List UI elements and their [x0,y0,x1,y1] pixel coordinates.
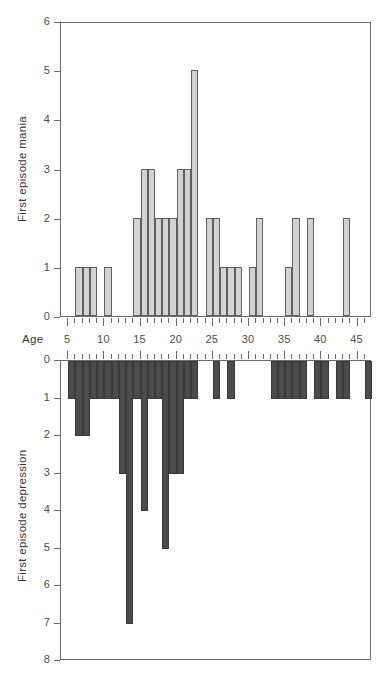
mania-plot-area [60,22,371,317]
mania-bar [292,218,299,316]
x-tick-mark [234,318,235,323]
x-tick-mark [140,318,141,326]
x-tick-mark [277,318,278,323]
y-tick-label: 1 [36,391,50,403]
x-tick-mark [147,354,148,359]
mania-bar [162,218,169,316]
x-tick-mark [212,351,213,359]
x-tick-mark [349,318,350,323]
mania-bar [75,267,82,316]
mania-bar [155,218,162,316]
mania-bar [213,218,220,316]
depression-bars-layer [61,361,370,659]
depression-plot-area [60,360,371,660]
x-tick-mark [140,351,141,359]
x-tick-mark [320,351,321,359]
x-tick-mark [306,354,307,359]
x-tick-mark [291,318,292,323]
y-tick-mark [54,435,60,436]
x-tick-mark [154,318,155,323]
figure-root: First episode mania 0123456 Age 51015202… [0,0,379,687]
mania-bar [256,218,263,316]
y-tick-mark [54,660,60,661]
x-tick-mark [299,354,300,359]
depression-bar [321,361,328,399]
x-tick-mark [205,318,206,323]
mania-bar [307,218,314,316]
x-tick-mark [248,318,249,326]
depression-bar [90,361,97,399]
mania-bar [235,267,242,316]
depression-bar [155,361,162,399]
x-tick-mark [284,351,285,359]
depression-bar [68,361,75,399]
depression-bar [278,361,285,399]
mania-bar [177,169,184,317]
y-tick-label: 1 [36,261,50,273]
x-tick-mark [67,318,68,326]
x-tick-label: 45 [345,333,369,345]
x-tick-mark [161,354,162,359]
depression-y-axis-title: First episode depression [16,450,28,583]
mania-bar [184,169,191,317]
depression-bar [104,361,111,399]
x-tick-label: 40 [308,333,332,345]
depression-bar [83,361,90,436]
x-tick-mark [103,351,104,359]
mania-bar [249,267,256,316]
x-tick-mark [226,354,227,359]
y-tick-label: 4 [36,503,50,515]
depression-bar [112,361,119,399]
x-tick-mark [335,354,336,359]
x-tick-mark [277,354,278,359]
depression-bar [126,361,133,624]
x-tick-mark [82,354,83,359]
x-tick-mark [67,351,68,359]
x-tick-label: 15 [128,333,152,345]
depression-bar [169,361,176,474]
x-axis-title: Age [22,333,43,345]
x-tick-mark [176,318,177,326]
x-tick-mark [147,318,148,323]
depression-bar [336,361,343,399]
x-tick-mark [197,318,198,323]
mania-bar [285,267,292,316]
x-tick-mark [328,354,329,359]
depression-bar [343,361,350,399]
y-tick-mark [54,22,60,23]
x-tick-mark [197,354,198,359]
mania-bar [220,267,227,316]
x-tick-mark [103,318,104,326]
y-tick-mark [54,219,60,220]
depression-bar [285,361,292,399]
y-tick-label: 2 [36,428,50,440]
x-tick-mark [190,354,191,359]
y-tick-label: 2 [36,212,50,224]
x-tick-mark [168,354,169,359]
x-tick-mark [190,318,191,323]
x-tick-mark [219,318,220,323]
x-tick-label: 5 [55,333,79,345]
x-tick-label: 10 [91,333,115,345]
depression-bar [177,361,184,474]
y-tick-label: 8 [36,653,50,665]
x-tick-label: 35 [272,333,296,345]
y-tick-label: 0 [36,353,50,365]
x-tick-mark [241,318,242,323]
y-tick-mark [54,317,60,318]
mania-bar [104,267,111,316]
mania-bars-layer [61,23,370,316]
x-tick-mark [96,354,97,359]
y-tick-mark [54,170,60,171]
x-tick-mark [89,318,90,323]
x-tick-mark [161,318,162,323]
depression-bar [213,361,220,399]
y-tick-label: 3 [36,163,50,175]
mania-bar [191,70,198,316]
x-tick-mark [183,354,184,359]
x-tick-mark [89,354,90,359]
depression-bar [162,361,169,549]
x-tick-mark [335,318,336,323]
depression-bar [300,361,307,399]
x-tick-mark [342,354,343,359]
